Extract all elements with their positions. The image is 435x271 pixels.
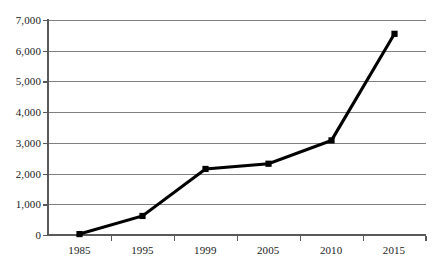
series-line	[80, 34, 395, 234]
data-point-1985	[76, 231, 82, 237]
data-point-1999	[202, 166, 208, 172]
data-point-2010	[328, 137, 334, 143]
data-point-1995	[139, 213, 145, 219]
data-point-2005	[265, 161, 271, 167]
line-chart: 7,000 6,000 5,000 4,000 3,000 2,000 1,00…	[0, 0, 435, 271]
data-series	[0, 0, 435, 271]
series-markers	[76, 31, 397, 237]
data-point-2015	[391, 31, 397, 37]
